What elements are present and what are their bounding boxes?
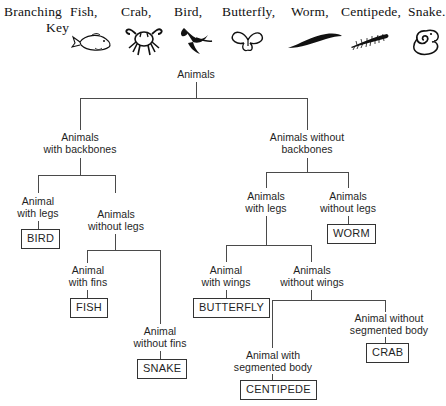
tree-node-animals-with-legs-inv: Animalswith legs [232, 190, 300, 215]
connector-nowings-down [311, 290, 312, 300]
connector-invlegs-down [266, 216, 267, 245]
connector-withoutlegs-right [160, 250, 161, 324]
tree-node-animal-with-fins: Animalwith fins [54, 264, 122, 289]
connector-nowings-bar [272, 300, 386, 301]
connector-level1-left [80, 98, 81, 130]
connector-nobackbones-right [348, 172, 349, 188]
leaf-fish: FISH [70, 298, 108, 318]
leaf-bird: BIRD [21, 229, 60, 249]
connector-invlegs-right [311, 245, 312, 262]
tree-node-animal-with-segmented-body: Animal withsegmented body [233, 349, 313, 374]
fish-icon [71, 28, 115, 54]
tree-node-animals-without-legs-inv: Animalswithout legs [314, 190, 382, 215]
leaf-butterfly: BUTTERFLY [193, 298, 270, 318]
connector-backbones-right [115, 175, 116, 193]
connector-butterfly-down [226, 290, 227, 298]
tree-node-animal-with-wings: Animalwith wings [189, 264, 263, 289]
connector-backbones-bar [38, 175, 116, 176]
crab-icon [124, 24, 164, 58]
connector-withoutlegs-left [87, 250, 88, 263]
centipede-icon [349, 30, 393, 52]
key-title-line2: Key [46, 20, 69, 36]
snake-icon [406, 24, 444, 58]
connector-withoutlegs-bar [87, 250, 161, 251]
tree-node-animals-without-legs: Animalswithout legs [76, 208, 156, 233]
tree-node-animal-without-fins: Animalwithout fins [121, 325, 199, 350]
connector-nobackbones-down [307, 158, 308, 172]
bird-icon [178, 24, 214, 56]
key-term-bird: Bird, [174, 4, 202, 20]
key-term-crab: Crab, [121, 4, 152, 20]
connector-nobackbones-left [266, 172, 267, 188]
connector-nobackbones-bar [266, 172, 349, 173]
leaf-snake: SNAKE [137, 359, 187, 379]
butterfly-icon [228, 26, 268, 56]
connector-fish-down [87, 290, 88, 298]
connector-withoutlegs-down [115, 234, 116, 250]
key-term-worm: Worm, [291, 4, 329, 20]
connector-level1-bar [80, 98, 308, 99]
key-term-snake: Snake. [408, 4, 446, 20]
key-title-line1: Branching [4, 4, 62, 20]
connector-snake-down [160, 351, 161, 359]
connector-nowings-left [272, 300, 273, 348]
leaf-crab: CRAB [366, 343, 409, 363]
connector-level1-right [307, 98, 308, 130]
connector-root-down [196, 82, 197, 98]
tree-node-without-backbones: Animals withoutbackbones [253, 131, 361, 156]
connector-invlegs-left [226, 245, 227, 262]
worm-icon [286, 30, 344, 52]
connector-backbones-down [80, 158, 81, 175]
key-term-centipede: Centipede, [341, 4, 401, 20]
connector-invlegs-bar [226, 245, 312, 246]
leaf-centipede: CENTIPEDE [240, 380, 317, 400]
key-term-fish: Fish, [70, 4, 98, 20]
tree-node-animals-without-wings: Animalswithout wings [272, 264, 352, 289]
tree-node-with-backbones: Animalswith backbones [26, 131, 134, 156]
connector-backbones-left [38, 175, 39, 193]
connector-bird-down [38, 221, 39, 229]
tree-node-root: Animals [170, 68, 222, 80]
tree-node-animal-without-segmented-body: Animal withoutsegmented body [340, 312, 438, 337]
key-term-butterfly: Butterfly, [222, 4, 275, 20]
connector-worm-down [348, 216, 349, 224]
leaf-worm: WORM [327, 224, 376, 244]
connector-nowings-right [385, 300, 386, 312]
tree-node-animal-with-legs: Animalwith legs [4, 195, 72, 220]
